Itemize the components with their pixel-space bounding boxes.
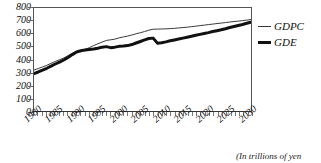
chart-legend: GDPCGDE bbox=[258, 19, 321, 51]
plot-area bbox=[33, 7, 252, 112]
legend-item-gde: GDE bbox=[258, 35, 321, 49]
series-line-gde bbox=[34, 22, 251, 74]
legend-item-gdpc: GDPC bbox=[258, 19, 321, 33]
y-axis-tick-label: 800 bbox=[1, 2, 31, 12]
legend-line-swatch-icon bbox=[258, 41, 271, 44]
series-line-gdpc bbox=[34, 20, 251, 70]
y-axis-tick-label: 500 bbox=[1, 41, 31, 51]
y-axis-tick-label: 200 bbox=[1, 81, 31, 91]
legend-line-swatch-icon bbox=[258, 26, 271, 27]
chart-figure: 8007006005004003002001000 19801985199019… bbox=[0, 0, 321, 163]
plot-lines-svg bbox=[34, 8, 251, 111]
y-axis-tick-label: 300 bbox=[1, 68, 31, 78]
chart-caption: (In trillions of yen bbox=[236, 151, 301, 162]
y-axis-tick-label: 700 bbox=[1, 15, 31, 25]
y-axis-label-group: 8007006005004003002001000 bbox=[0, 0, 31, 120]
y-axis-tick-label: 400 bbox=[1, 55, 31, 65]
legend-item-label: GDPC bbox=[274, 21, 304, 32]
legend-item-label: GDE bbox=[274, 37, 297, 48]
y-axis-tick-label: 600 bbox=[1, 28, 31, 38]
x-axis-label-group: 1980198519901995200020052010201520202025… bbox=[0, 115, 321, 145]
y-axis-tick-label: 100 bbox=[1, 94, 31, 104]
